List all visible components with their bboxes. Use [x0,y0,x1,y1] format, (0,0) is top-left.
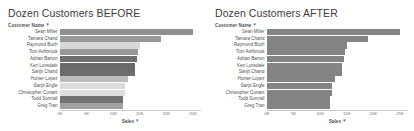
bar-row[interactable]: Tamara Chand [211,36,408,42]
bar-track [60,42,201,48]
bar-row[interactable]: Tom Ashbrook [4,49,201,55]
bar-track [267,56,408,62]
bar-row[interactable]: Ken Lonsdale [4,63,201,69]
bar-row[interactable]: Sanjit Engle [211,83,408,89]
x-axis-after: Sales ▼ 0K5K10K15K20K25K [267,110,408,131]
bar[interactable] [60,96,123,102]
bar-row[interactable]: Tom Ashbrook [211,49,408,55]
bar-row[interactable]: Sanjit Engle [4,83,201,89]
axis-title-sales-before[interactable]: Sales ▼ [60,119,201,124]
bar-row[interactable]: Todd Sumrall [4,96,201,102]
bar-track [267,63,408,69]
bar-track [267,90,408,96]
bar-row-label: Tamara Chand [4,36,60,42]
bar-row-label: Raymond Buch [211,42,267,48]
field-header-customer-name-after[interactable]: Customer Name ▼ [215,23,408,28]
bar-track [267,29,408,35]
bar[interactable] [267,29,400,35]
sort-descending-icon[interactable]: ▼ [342,119,346,123]
bar[interactable] [60,69,135,75]
bar-row-label: Adrian Barton [211,56,267,62]
bar[interactable] [267,63,342,69]
bar-row-label: Sean Miller [4,29,60,35]
bar-track [60,76,201,82]
dashboard: Dozen Customers BEFORE Customer Name ▼ S… [0,0,414,131]
bar-row[interactable]: Raymond Buch [211,42,408,48]
bar-track [60,29,201,35]
bar-track [60,69,201,75]
bar-row[interactable]: Sanjit Chand [211,69,408,75]
bar-row-label: Christopher Conant [4,90,60,96]
panel-before: Dozen Customers BEFORE Customer Name ▼ S… [0,0,207,131]
axis-title-sales-after[interactable]: Sales ▼ [267,119,408,124]
bar-track [60,56,201,62]
bar[interactable] [60,36,161,42]
bar-row[interactable]: Christopher Conant [4,90,201,96]
axis-tick-label: 0K [57,111,62,116]
bar-row[interactable]: Hunter Lopez [4,76,201,82]
bar-row[interactable]: Greg Tran [4,103,201,109]
bar-row-label: Hunter Lopez [4,76,60,82]
axis-tick-label: 20K [370,111,378,116]
sort-descending-icon[interactable]: ▼ [46,23,50,27]
bar-track [267,76,408,82]
bar[interactable] [267,69,342,75]
bar[interactable] [60,56,137,62]
bar-row[interactable]: Ken Lonsdale [211,63,408,69]
bar-track [267,83,408,89]
axis-tick-label: 25K [396,111,404,116]
panel-after: Dozen Customers AFTER Customer Name ▼ Se… [207,0,414,131]
bar-chart-after: Sean MillerTamara ChandRaymond BuchTom A… [211,29,408,110]
bar-track [267,103,408,109]
bar-row[interactable]: Raymond Buch [4,42,201,48]
bar[interactable] [267,42,347,48]
axis-tick-label: 25K [189,111,197,116]
axis-tick-label: 0K [264,111,269,116]
bar-row[interactable]: Sean Miller [4,29,201,35]
bar[interactable] [267,103,330,109]
bar-row-label: Ken Lonsdale [4,63,60,69]
bar[interactable] [267,49,345,55]
sort-descending-icon[interactable]: ▼ [135,119,139,123]
bar-row-label: Todd Sumrall [211,96,267,102]
page-title-before: Dozen Customers BEFORE [8,7,201,19]
bar-row[interactable]: Hunter Lopez [211,76,408,82]
bar[interactable] [267,36,368,42]
bar-track [60,36,201,42]
bar[interactable] [60,83,125,89]
bar-row[interactable]: Sean Miller [211,29,408,35]
bar-row-label: Sanjit Chand [211,69,267,75]
bar[interactable] [267,90,332,96]
bar[interactable] [60,90,125,96]
axis-tick-label: 20K [163,111,171,116]
bar-row-label: Tom Ashbrook [4,49,60,55]
bar-row-label: Sean Miller [211,29,267,35]
bar[interactable] [60,63,135,69]
axis-title-label: Sales [122,119,135,124]
bar[interactable] [60,29,193,35]
bar[interactable] [267,83,332,89]
bar[interactable] [60,42,140,48]
field-header-customer-name-before[interactable]: Customer Name ▼ [8,23,201,28]
bar-row[interactable]: Adrian Barton [4,56,201,62]
bar[interactable] [267,56,344,62]
sort-descending-icon[interactable]: ▼ [253,23,257,27]
bar-track [60,103,201,109]
bar-chart-before: Sean MillerTamara ChandRaymond BuchTom A… [4,29,201,110]
bar-row[interactable]: Tamara Chand [4,36,201,42]
bar-track [267,49,408,55]
bar-row[interactable]: Adrian Barton [211,56,408,62]
bar[interactable] [60,49,138,55]
bar-row[interactable]: Greg Tran [211,103,408,109]
bar[interactable] [60,76,128,82]
bar-row[interactable]: Christopher Conant [211,90,408,96]
bar[interactable] [267,76,335,82]
bar-row[interactable]: Sanjit Chand [4,69,201,75]
bar-row[interactable]: Todd Sumrall [211,96,408,102]
bar-track [267,42,408,48]
bar-track [267,69,408,75]
bar[interactable] [267,96,330,102]
bar-row-label: Greg Tran [4,103,60,109]
bar-row-label: Tamara Chand [211,36,267,42]
bar[interactable] [60,103,123,109]
